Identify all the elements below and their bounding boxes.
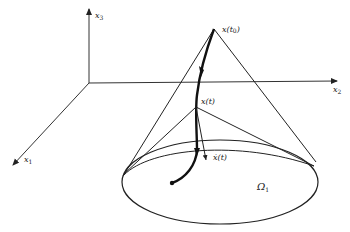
x2-axis-label: x2	[333, 85, 342, 95]
current-point-label: x(t)	[201, 97, 215, 106]
x1-axis	[13, 83, 89, 165]
x2-axis	[89, 81, 337, 83]
cone-diagram: x3 x2 x1 x(t0) x(t) ẋ(t) Ω1	[0, 0, 350, 232]
trajectory-endpoint	[170, 181, 174, 185]
x1-axis-label: x1	[24, 155, 32, 165]
region-label: Ω1	[256, 181, 269, 193]
velocity-label: ẋ(t)	[213, 153, 227, 162]
trajectory-curve	[172, 29, 214, 183]
apex-label: x(t0)	[222, 25, 240, 34]
coordinate-axes	[13, 9, 337, 165]
inner-cone	[124, 107, 314, 175]
trajectory-direction-arrow-lower	[194, 148, 200, 156]
x3-axis-label: x3	[95, 11, 104, 21]
